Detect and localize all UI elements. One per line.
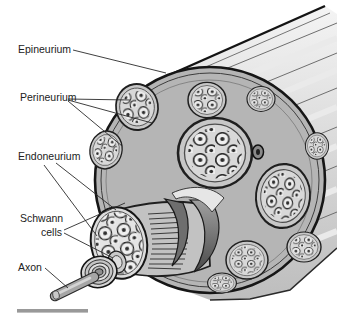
label-schwann-cells-line1: Schwann xyxy=(20,212,63,224)
fascicle xyxy=(188,82,226,117)
label-schwann-cells-line2: cells xyxy=(41,226,62,238)
nerve-illustration: Epineurium Perineurium Endoneurium Schwa… xyxy=(0,0,337,324)
fascicle xyxy=(208,273,237,293)
blood-vessel xyxy=(253,145,264,159)
figure-nerve-anatomy: Epineurium Perineurium Endoneurium Schwa… xyxy=(0,0,337,324)
label-perineurium: Perineurium xyxy=(20,91,77,103)
fascicle xyxy=(178,118,252,188)
scale-bar xyxy=(17,309,88,313)
label-axon: Axon xyxy=(18,261,42,273)
epineurium-leader xyxy=(73,50,166,73)
label-epineurium: Epineurium xyxy=(18,43,71,55)
fascicle xyxy=(305,133,328,159)
fascicle xyxy=(287,232,321,262)
label-endoneurium: Endoneurium xyxy=(18,150,81,162)
schwann-cell-wrap xyxy=(52,249,129,300)
labels: Epineurium Perineurium Endoneurium Schwa… xyxy=(18,43,81,273)
axon-rod xyxy=(52,277,94,300)
fascicle xyxy=(247,87,275,112)
axon-leader xyxy=(45,268,68,288)
fascicle xyxy=(226,241,268,279)
